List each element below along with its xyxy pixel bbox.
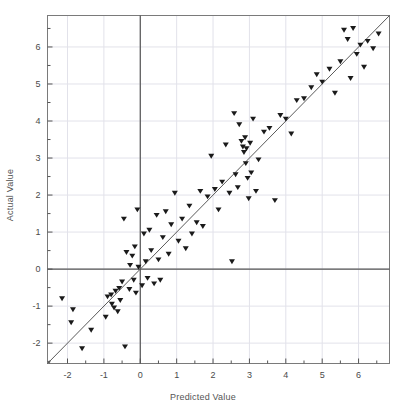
- y-tick-label: 3: [35, 153, 40, 163]
- x-tick-label: 2: [211, 370, 216, 380]
- data-point: [154, 213, 160, 218]
- data-point: [70, 307, 76, 312]
- data-point: [59, 296, 65, 301]
- data-point: [134, 207, 140, 212]
- data-point: [314, 72, 320, 77]
- data-point: [148, 248, 154, 253]
- data-point: [361, 65, 367, 70]
- data-point: [341, 28, 347, 33]
- data-point: [370, 46, 376, 51]
- data-point: [117, 298, 123, 303]
- y-tick-label: 5: [35, 79, 40, 89]
- data-point: [127, 263, 133, 268]
- data-point: [294, 98, 300, 103]
- data-point: [68, 320, 74, 325]
- data-point: [160, 235, 166, 240]
- x-tick-label: 6: [356, 370, 361, 380]
- data-point: [216, 207, 222, 212]
- data-point: [231, 111, 237, 116]
- data-point: [186, 204, 192, 209]
- x-tick-label: 4: [283, 370, 288, 380]
- data-point: [272, 198, 278, 203]
- data-point: [141, 231, 147, 236]
- data-point: [256, 157, 262, 162]
- reference-line: [48, 16, 390, 364]
- data-point: [126, 287, 132, 292]
- data-point: [238, 139, 244, 144]
- data-point: [166, 252, 172, 257]
- data-point: [88, 328, 94, 333]
- data-point: [223, 143, 229, 148]
- data-point: [132, 244, 138, 249]
- y-tick-label: 2: [35, 190, 40, 200]
- data-point: [157, 278, 163, 283]
- data-point: [129, 254, 135, 259]
- data-point: [122, 344, 128, 349]
- y-tick-label: -1: [32, 301, 40, 311]
- data-point: [79, 346, 85, 351]
- y-tick-labels: -2-10123456: [32, 42, 40, 348]
- plot-canvas: -2-10123456 -2-10123456: [0, 0, 406, 417]
- data-point: [246, 196, 252, 201]
- data-point: [235, 185, 241, 190]
- data-point: [179, 217, 185, 222]
- data-point: [131, 278, 137, 283]
- x-tick-label: 0: [138, 370, 143, 380]
- data-point: [348, 76, 354, 81]
- data-point: [236, 122, 242, 127]
- data-point: [332, 91, 338, 96]
- data-point: [345, 37, 351, 42]
- data-point: [189, 231, 195, 236]
- x-tick-label: 5: [320, 370, 325, 380]
- x-axis-title: Predicted Value: [0, 392, 406, 402]
- data-point: [350, 26, 356, 31]
- data-point: [183, 246, 189, 251]
- data-point: [247, 141, 253, 146]
- data-point: [151, 281, 157, 286]
- data-point: [163, 209, 169, 214]
- data-point: [145, 276, 151, 281]
- data-point: [133, 291, 139, 296]
- x-tick-label: 1: [174, 370, 179, 380]
- data-point: [155, 257, 161, 262]
- data-point: [123, 250, 129, 255]
- data-point: [253, 189, 259, 194]
- data-point: [197, 189, 203, 194]
- y-tick-label: 4: [35, 116, 40, 126]
- scatter-plot-figure: -2-10123456 -2-10123456 Predicted Value …: [0, 0, 406, 417]
- data-point: [115, 309, 121, 314]
- data-point: [121, 217, 127, 222]
- data-point: [288, 132, 294, 137]
- data-point: [229, 259, 235, 264]
- data-point: [277, 113, 283, 118]
- x-tick-label: -1: [100, 370, 108, 380]
- data-point: [261, 130, 267, 135]
- y-tick-label: 1: [35, 227, 40, 237]
- data-point: [241, 150, 247, 155]
- data-point: [326, 67, 332, 72]
- data-point: [105, 294, 111, 299]
- data-point: [376, 32, 382, 37]
- data-point: [365, 39, 371, 44]
- data-point: [194, 220, 200, 225]
- data-point: [266, 126, 272, 131]
- y-tick-label: -2: [32, 338, 40, 348]
- y-tick-label: 6: [35, 42, 40, 52]
- y-axis-title: Actual Value: [5, 145, 15, 245]
- x-tick-labels: -2-10123456: [64, 370, 362, 380]
- x-tick-label: 3: [247, 370, 252, 380]
- y-tick-label: 0: [35, 264, 40, 274]
- data-point: [119, 280, 125, 285]
- data-point: [168, 222, 174, 227]
- data-point: [200, 224, 206, 229]
- data-point: [308, 85, 314, 90]
- x-tick-label: -2: [64, 370, 72, 380]
